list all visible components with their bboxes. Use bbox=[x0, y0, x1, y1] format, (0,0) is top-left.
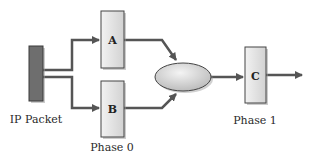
edge-a-to-merge bbox=[124, 40, 176, 60]
box-c-node: C bbox=[245, 47, 268, 105]
merge-ellipse-node bbox=[155, 63, 213, 93]
phase-0-label: Phase 0 bbox=[90, 141, 134, 154]
edge-packet-to-a bbox=[43, 40, 99, 70]
box-b-label: B bbox=[108, 103, 117, 116]
box-c-label: C bbox=[251, 70, 260, 83]
ip-packet-node bbox=[29, 46, 45, 103]
box-a-node: A bbox=[101, 11, 126, 70]
box-b-node: B bbox=[101, 81, 126, 139]
pipeline-diagram: A B C IP Packet Phase 0 Phase 1 bbox=[0, 0, 320, 160]
edge-packet-to-b bbox=[43, 77, 99, 108]
ip-packet-label: IP Packet bbox=[10, 113, 63, 126]
box-a-label: A bbox=[107, 34, 117, 47]
edge-b-to-merge bbox=[124, 94, 176, 108]
phase-1-label: Phase 1 bbox=[233, 114, 277, 127]
